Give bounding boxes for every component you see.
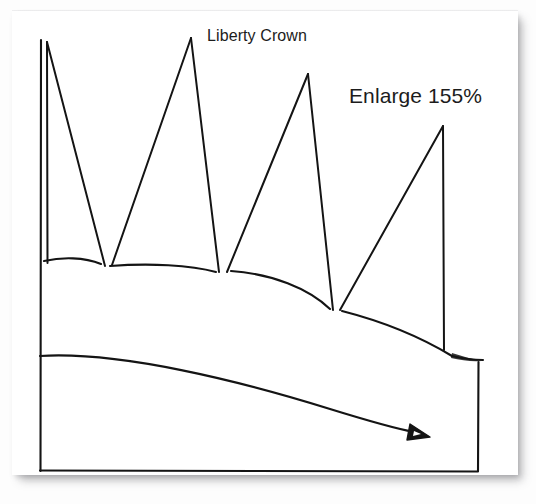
screenshot-root: Liberty Crown Enlarge 155%	[0, 0, 536, 504]
enlarge-label: Enlarge 155%	[349, 84, 482, 108]
crown-spike-4	[340, 126, 444, 350]
crown-band	[44, 258, 483, 360]
liberty-crown-drawing	[0, 0, 536, 504]
crown-spike-1	[47, 42, 105, 266]
crown-spike-3	[227, 74, 333, 310]
sweep-arc	[40, 355, 414, 432]
arrowhead-icon	[407, 424, 430, 440]
title-label: Liberty Crown	[207, 27, 307, 45]
crown-spike-2	[112, 38, 219, 272]
ink-smudge	[451, 353, 481, 361]
